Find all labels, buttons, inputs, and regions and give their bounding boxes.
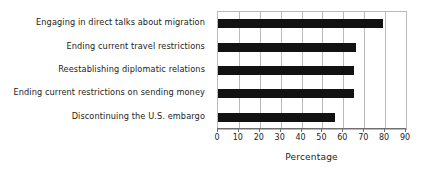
x-tick xyxy=(280,128,281,132)
x-tick xyxy=(321,128,322,132)
x-axis: 0102030405060708090 xyxy=(217,128,406,129)
x-tick xyxy=(363,128,364,132)
x-tick xyxy=(384,128,385,132)
x-tick xyxy=(301,128,302,132)
x-tick xyxy=(217,128,218,132)
bars-layer xyxy=(218,12,406,129)
x-tick-label: 50 xyxy=(316,133,326,142)
bar-chart: Engaging in direct talks about migration… xyxy=(0,0,422,178)
category-label-slot: Ending current travel restrictions xyxy=(0,34,212,57)
x-axis-title: Percentage xyxy=(217,152,406,162)
x-tick xyxy=(238,128,239,132)
bar xyxy=(218,43,356,52)
x-tick-label: 0 xyxy=(214,133,219,142)
x-tick-label: 10 xyxy=(233,133,243,142)
category-label-slot: Discontinuing the U.S. embargo xyxy=(0,105,212,128)
category-label: Ending current restrictions on sending m… xyxy=(13,88,205,97)
bar xyxy=(218,113,335,122)
bar-slot xyxy=(218,59,406,82)
x-tick-label: 40 xyxy=(295,133,305,142)
bar-slot xyxy=(218,106,406,129)
x-tick-label: 20 xyxy=(254,133,264,142)
category-label: Reestablishing diplomatic relations xyxy=(58,65,205,74)
bar xyxy=(218,66,354,75)
category-label: Engaging in direct talks about migration xyxy=(36,18,205,27)
category-label: Discontinuing the U.S. embargo xyxy=(72,112,205,121)
category-labels-axis: Engaging in direct talks about migration… xyxy=(0,11,212,128)
bar xyxy=(218,89,354,98)
x-tick-label: 90 xyxy=(400,133,410,142)
bar-slot xyxy=(218,35,406,58)
x-tick xyxy=(405,128,406,132)
category-label-slot: Engaging in direct talks about migration xyxy=(0,11,212,34)
x-tick xyxy=(342,128,343,132)
bar-slot xyxy=(218,12,406,35)
x-tick-label: 60 xyxy=(337,133,347,142)
x-tick-label: 70 xyxy=(358,133,368,142)
plot-area xyxy=(217,11,407,130)
x-tick xyxy=(259,128,260,132)
x-tick-label: 80 xyxy=(379,133,389,142)
category-label: Ending current travel restrictions xyxy=(66,42,205,51)
category-label-slot: Ending current restrictions on sending m… xyxy=(0,81,212,104)
category-label-slot: Reestablishing diplomatic relations xyxy=(0,58,212,81)
gridline xyxy=(406,12,407,129)
x-tick-label: 30 xyxy=(275,133,285,142)
bar xyxy=(218,19,383,28)
bar-slot xyxy=(218,82,406,105)
